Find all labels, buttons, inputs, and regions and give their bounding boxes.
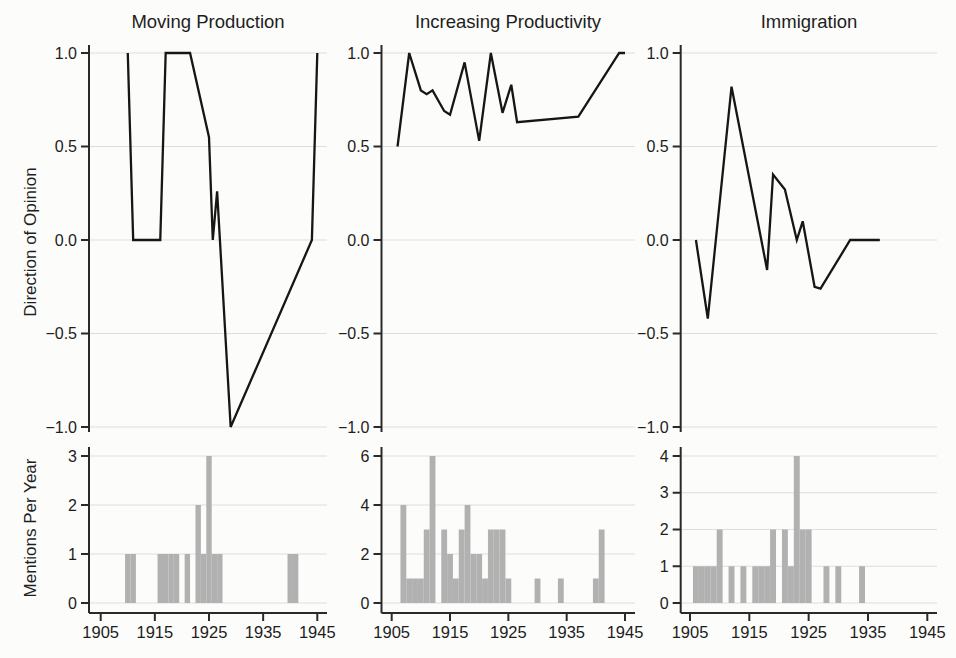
bar-1917 — [758, 566, 764, 603]
bar-1941 — [293, 554, 298, 603]
bar-1923 — [195, 505, 200, 603]
data-line — [696, 87, 880, 319]
y-tick-label: 0 — [660, 595, 669, 612]
bar-1919 — [770, 530, 776, 604]
bar-1916 — [158, 554, 163, 603]
bar-1923 — [494, 530, 500, 604]
y-tick-label: 0 — [68, 595, 77, 612]
bar-1930 — [535, 579, 541, 604]
y-axis: 1.00.50.0−0.5−1.0 — [45, 45, 89, 436]
bar-1925 — [206, 456, 211, 603]
y-tick-label: 1 — [68, 546, 77, 563]
y-tick-label: −0.5 — [338, 325, 370, 342]
y-tick-label: −0.5 — [637, 325, 669, 342]
y-tick-label: 1.0 — [347, 45, 369, 62]
x-tick-label: 1935 — [548, 623, 585, 641]
y-tick-label: 1 — [660, 558, 669, 575]
y-tick-label: 0.0 — [347, 232, 369, 249]
y-tick-label: 1.0 — [55, 45, 77, 62]
y-tick-label: 0 — [361, 595, 370, 612]
gridlines — [89, 53, 327, 427]
bar-1918 — [465, 505, 471, 603]
y-tick-label: 0.5 — [347, 138, 369, 155]
x-tick-label: 1945 — [909, 623, 946, 641]
bar-1907 — [400, 505, 406, 603]
bar-1916 — [752, 566, 758, 603]
y-tick-label: 0.5 — [646, 138, 668, 155]
x-tick-label: 1915 — [731, 623, 768, 641]
bar-1920 — [476, 554, 482, 603]
x-tick-label: 1935 — [245, 623, 282, 641]
x-tick-label: 1905 — [672, 623, 709, 641]
y-tick-label: 0.0 — [646, 232, 668, 249]
y-tick-label: 2 — [660, 521, 669, 538]
y-axis: 1.00.50.0−0.5−1.0 — [338, 45, 382, 436]
figure: Moving Production Increasing Productivit… — [0, 0, 956, 658]
bar-1919 — [174, 554, 179, 603]
gridlines — [382, 53, 636, 427]
bar-1940 — [288, 554, 293, 603]
bar-1917 — [459, 530, 465, 604]
y-tick-label: 4 — [361, 497, 370, 514]
bar-1910 — [418, 579, 424, 604]
bar-1908 — [406, 579, 412, 604]
bar-1907 — [699, 566, 705, 603]
y-tick-label: −1.0 — [338, 419, 370, 436]
x-tick-label: 1905 — [82, 623, 119, 641]
y-tick-label: 4 — [660, 448, 669, 465]
bar-1914 — [740, 566, 746, 603]
y-axis: 1.00.50.0−0.5−1.0 — [637, 45, 681, 436]
bar-1941 — [599, 530, 605, 604]
x-axis: 19051915192519351945 — [373, 613, 643, 641]
y-axis: 0123 — [68, 447, 89, 613]
bar-1911 — [424, 530, 430, 604]
y-tick-label: 0.5 — [55, 138, 77, 155]
y-axis: 01234 — [660, 447, 681, 613]
bar-1918 — [168, 554, 173, 603]
x-tick-label: 1925 — [790, 623, 827, 641]
bar-1922 — [488, 530, 494, 604]
y-tick-label: 2 — [361, 546, 370, 563]
bar-1919 — [470, 554, 476, 603]
y-tick-label: −0.5 — [45, 325, 77, 342]
data-line — [398, 53, 625, 147]
x-tick-label: 1905 — [373, 623, 410, 641]
bar-1924 — [800, 530, 806, 604]
bar-1921 — [185, 554, 190, 603]
x-axis: 19051915192519351945 — [82, 613, 335, 641]
bar-1909 — [412, 579, 418, 604]
panel-immigration-mentions: 0123419051915192519351945 — [660, 447, 946, 641]
bar-1925 — [806, 530, 812, 604]
y-tick-label: −1.0 — [45, 419, 77, 436]
panel-moving-production-direction: 1.00.50.0−0.5−1.0 — [45, 45, 327, 436]
bar-1921 — [482, 579, 488, 604]
bar-1926 — [212, 554, 217, 603]
bar-1940 — [593, 579, 599, 604]
y-tick-label: 6 — [361, 448, 370, 465]
bar-1934 — [558, 579, 564, 604]
bar-1908 — [705, 566, 711, 603]
bar-1923 — [794, 456, 800, 603]
y-tick-label: 3 — [660, 484, 669, 501]
bar-1906 — [693, 566, 699, 603]
y-axis: 0246 — [361, 447, 382, 613]
bar-1921 — [782, 530, 788, 604]
y-tick-label: 0.0 — [55, 232, 77, 249]
panel-increasing-productivity-mentions: 024619051915192519351945 — [361, 447, 644, 641]
bar-1910 — [125, 554, 130, 603]
x-tick-label: 1925 — [490, 623, 527, 641]
y-tick-label: 1.0 — [646, 45, 668, 62]
x-tick-label: 1935 — [850, 623, 887, 641]
bar-1930 — [835, 566, 841, 603]
chart-canvas: 1.00.50.0−0.5−1.01.00.50.0−0.5−1.01.00.5… — [0, 0, 956, 658]
bar-1914 — [441, 530, 447, 604]
bar-1910 — [717, 530, 723, 604]
bar-1927 — [217, 554, 222, 603]
bar-1911 — [130, 554, 135, 603]
bars — [400, 456, 604, 603]
x-tick-label: 1945 — [299, 623, 336, 641]
y-tick-label: 3 — [68, 448, 77, 465]
bar-1917 — [163, 554, 168, 603]
bar-1915 — [447, 554, 453, 603]
panel-increasing-productivity-direction: 1.00.50.0−0.5−1.0 — [338, 45, 635, 436]
